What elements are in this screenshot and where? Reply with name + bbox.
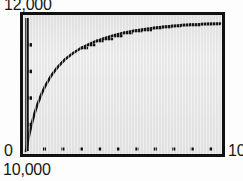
series-line <box>26 24 220 151</box>
x-axis-min-label: 10,000 <box>3 161 51 179</box>
plot-area <box>20 12 225 157</box>
x-axis-max-label: 10 <box>228 142 243 160</box>
plot-canvas <box>23 15 222 154</box>
y-axis-min-label: 0 <box>4 142 13 160</box>
data-series <box>26 24 220 151</box>
x-axis-ticks <box>43 148 212 151</box>
chart-screenshot: 12,000 0 10,000 10 <box>0 0 243 181</box>
